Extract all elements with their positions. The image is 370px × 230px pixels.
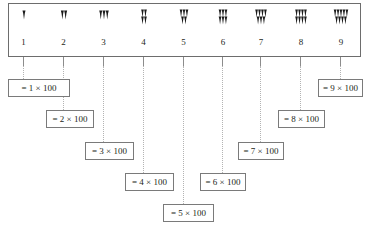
cuneiform-eight-icon bbox=[281, 6, 321, 36]
equation-box-2: = 2 × 100 bbox=[46, 110, 94, 128]
cuneiform-numeral-strip: 123456789 bbox=[8, 3, 361, 57]
leader-line-3 bbox=[103, 66, 104, 142]
tick-mark-3 bbox=[103, 57, 104, 66]
numeral-label-3: 3 bbox=[84, 37, 124, 48]
equation-box-9: = 9 × 100 bbox=[318, 79, 363, 97]
equation-box-5: = 5 × 100 bbox=[163, 204, 214, 222]
equation-text-1: = 1 × 100 bbox=[22, 80, 57, 96]
equation-box-8: = 8 × 100 bbox=[278, 110, 325, 128]
tick-mark-2 bbox=[63, 57, 64, 66]
numeral-cell-3: 3 bbox=[84, 4, 124, 58]
numeral-cell-2: 2 bbox=[44, 4, 84, 58]
cuneiform-five-icon bbox=[164, 6, 204, 36]
equation-box-6: = 6 × 100 bbox=[200, 173, 246, 191]
tick-mark-9 bbox=[340, 57, 341, 66]
cuneiform-nine-icon bbox=[321, 6, 361, 36]
numeral-cell-5: 5 bbox=[164, 4, 204, 58]
leader-line-7 bbox=[260, 66, 261, 142]
cuneiform-seven-icon bbox=[241, 6, 281, 36]
numeral-label-8: 8 bbox=[281, 37, 321, 48]
numeral-cell-1: 1 bbox=[4, 4, 44, 58]
leader-line-5 bbox=[183, 66, 184, 204]
equation-text-2: = 2 × 100 bbox=[53, 111, 88, 127]
equation-text-6: = 6 × 100 bbox=[206, 174, 241, 190]
equation-box-7: = 7 × 100 bbox=[238, 142, 284, 160]
cuneiform-one-icon bbox=[4, 6, 44, 36]
cuneiform-three-icon bbox=[84, 6, 124, 36]
leader-line-8 bbox=[300, 66, 301, 110]
tick-mark-5 bbox=[183, 57, 184, 66]
tick-mark-1 bbox=[23, 57, 24, 66]
cuneiform-four-icon bbox=[124, 6, 164, 36]
equation-text-3: = 3 × 100 bbox=[92, 143, 127, 159]
leader-line-6 bbox=[222, 66, 223, 173]
equation-text-4: = 4 × 100 bbox=[132, 174, 167, 190]
tick-mark-8 bbox=[300, 57, 301, 66]
numeral-label-9: 9 bbox=[321, 37, 361, 48]
equation-text-8: = 8 × 100 bbox=[284, 111, 319, 127]
equation-box-3: = 3 × 100 bbox=[85, 142, 134, 160]
figure-root: 123456789 = 1 × 100= 2 × 100= 3 × 100= 4… bbox=[0, 0, 370, 230]
equation-text-9: = 9 × 100 bbox=[323, 80, 358, 96]
numeral-label-6: 6 bbox=[203, 37, 243, 48]
numeral-cell-7: 7 bbox=[241, 4, 281, 58]
leader-line-4 bbox=[143, 66, 144, 173]
numeral-cell-6: 6 bbox=[203, 4, 243, 58]
equation-text-5: = 5 × 100 bbox=[171, 205, 206, 221]
numeral-cell-8: 8 bbox=[281, 4, 321, 58]
numeral-cell-9: 9 bbox=[321, 4, 361, 58]
numeral-label-2: 2 bbox=[44, 37, 84, 48]
numeral-label-5: 5 bbox=[164, 37, 204, 48]
tick-mark-7 bbox=[260, 57, 261, 66]
numeral-label-1: 1 bbox=[4, 37, 44, 48]
cuneiform-two-icon bbox=[44, 6, 84, 36]
leader-line-1 bbox=[23, 66, 24, 79]
equation-box-4: = 4 × 100 bbox=[125, 173, 174, 191]
numeral-cell-4: 4 bbox=[124, 4, 164, 58]
numeral-label-7: 7 bbox=[241, 37, 281, 48]
tick-mark-6 bbox=[222, 57, 223, 66]
numeral-label-4: 4 bbox=[124, 37, 164, 48]
equation-text-7: = 7 × 100 bbox=[244, 143, 279, 159]
leader-line-9 bbox=[340, 66, 341, 79]
tick-mark-4 bbox=[143, 57, 144, 66]
equation-box-1: = 1 × 100 bbox=[8, 79, 70, 97]
cuneiform-six-icon bbox=[203, 6, 243, 36]
